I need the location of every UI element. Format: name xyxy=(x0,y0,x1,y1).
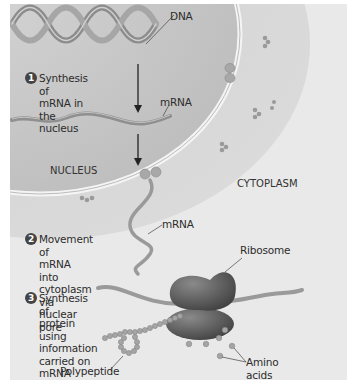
label-dna: DNA xyxy=(170,10,193,23)
step-number-badge: 2 xyxy=(25,233,37,245)
label-cytoplasm: CYTOPLASM xyxy=(237,178,298,191)
label-mrna-nucleus: mRNA xyxy=(160,96,192,109)
step-text: Synthesis of mRNA in the nucleus xyxy=(39,72,88,135)
step-number-badge: 1 xyxy=(25,72,37,84)
amino-acids-leader-lines xyxy=(222,348,246,362)
ribosome-leader-line xyxy=(225,258,242,272)
gene-expression-diagram: DNA mRNA NUCLEUS CYTOPLASM mRNA Ribosome… xyxy=(10,4,347,380)
step-number-badge: 3 xyxy=(25,292,37,304)
label-amino-acids: Amino acids xyxy=(246,356,278,380)
polypeptide-chain xyxy=(102,313,182,355)
label-nucleus: NUCLEUS xyxy=(50,165,97,178)
step-text: Synthesis of protein using information c… xyxy=(39,292,97,380)
label-mrna-cytoplasm: mRNA xyxy=(162,218,194,231)
mrna-cytoplasm-leader-line xyxy=(148,225,162,234)
label-ribosome: Ribosome xyxy=(240,244,290,257)
